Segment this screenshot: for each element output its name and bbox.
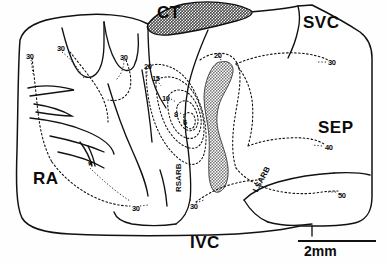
isochrone-label: 30 (120, 54, 128, 62)
isochrone-label: 30 (132, 205, 140, 213)
isochrone-label: 20 (144, 63, 152, 71)
scale-bar-line (298, 240, 376, 242)
anatomy-label-sep: SEP (318, 119, 354, 136)
scale-bar-label: 2mm (304, 244, 337, 258)
isochrone-label: 8 (174, 111, 178, 119)
isochrone-label: 30 (57, 45, 65, 53)
isochrone-label: 30 (26, 53, 34, 61)
anatomy-label-ra: RA (33, 170, 59, 187)
isochrone-label: 50 (338, 192, 346, 200)
anatomy-label-svc: SVC (303, 14, 339, 31)
isochrone-label: 30 (328, 59, 336, 67)
earliest-activation-marker: * (88, 160, 93, 172)
anatomy-label-ivc: IVC (190, 234, 220, 251)
isochrone-label: 10 (162, 95, 170, 103)
isochrone-label: 15 (152, 75, 160, 83)
activation-map-figure: CT SVC SEP RA IVC RSARB LSARB 30 30 30 2… (0, 0, 387, 264)
isochrone-label: 6 (183, 119, 187, 127)
isochrone-label: 20 (214, 52, 222, 60)
anatomy-label-ct: CT (157, 4, 181, 21)
isochrone-label: 30 (190, 203, 198, 211)
isochrone-label: 40 (325, 144, 333, 152)
bundle-label-rsarb: RSARB (175, 164, 183, 192)
